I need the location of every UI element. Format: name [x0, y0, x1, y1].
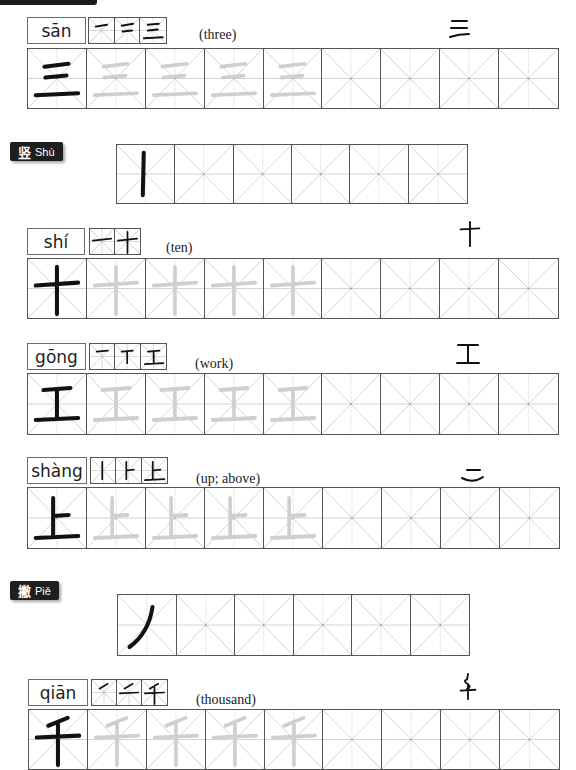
- model-character-cell: [28, 488, 87, 548]
- practice-grid-qian: [28, 709, 560, 770]
- trace-cell: [146, 259, 205, 318]
- stroke-order-strip: [89, 343, 167, 370]
- trace-cell: [205, 49, 264, 108]
- pinyin-box: shí: [27, 228, 85, 255]
- blank-practice-cell: [500, 488, 559, 548]
- trace-cell: [264, 49, 323, 108]
- meaning-label: (work): [195, 356, 233, 372]
- blank-practice-cell: [235, 595, 294, 655]
- ancient-form-san: [442, 16, 478, 44]
- trace-cell: [87, 49, 146, 108]
- blank-practice-cell: [441, 488, 500, 548]
- ancient-form-shang: [455, 462, 491, 490]
- trace-cell: [265, 710, 324, 769]
- stroke-step-3: [142, 458, 167, 483]
- blank-practice-cell: [381, 374, 440, 434]
- model-character-cell: [28, 374, 87, 434]
- trace-cell: [205, 488, 264, 548]
- ancient-form-qian: [450, 672, 486, 700]
- practice-grid-gong: [27, 373, 559, 435]
- stroke-step-3: [141, 344, 166, 369]
- model-character-cell: [28, 259, 87, 318]
- blank-practice-cell: [441, 710, 500, 769]
- practice-grid-shi: [27, 258, 559, 319]
- trace-cell: [146, 49, 205, 108]
- stroke-step-2: [117, 680, 142, 705]
- trace-cell: [87, 259, 146, 318]
- blank-practice-cell: [234, 145, 292, 203]
- stroke-order-strip: [90, 457, 168, 484]
- stroke-order-strip: [89, 228, 141, 255]
- stroke-step-1: [90, 344, 115, 369]
- stroke-step-2: [115, 229, 140, 254]
- blank-practice-cell: [352, 595, 411, 655]
- blank-practice-cell: [350, 145, 408, 203]
- model-character-cell: [118, 595, 177, 655]
- stroke-pinyin: Piě: [35, 585, 51, 597]
- pinyin-box: shàng: [27, 457, 87, 484]
- model-character-cell: [28, 49, 87, 108]
- meaning-label: (ten): [166, 240, 192, 256]
- practice-grid-shang: [27, 487, 560, 549]
- trace-cell: [264, 488, 323, 548]
- ancient-form-shi: [452, 220, 488, 248]
- meaning-label: (three): [199, 27, 236, 43]
- pinyin-box: gōng: [27, 343, 86, 370]
- pinyin-box: sān: [27, 17, 86, 44]
- stroke-order-strip: [88, 17, 167, 44]
- blank-practice-cell: [323, 710, 382, 769]
- stroke-step-2: [115, 344, 140, 369]
- blank-practice-cell: [294, 595, 353, 655]
- blank-practice-cell: [440, 374, 499, 434]
- blank-practice-cell: [411, 595, 470, 655]
- blank-practice-cell: [382, 488, 441, 548]
- trace-cell: [206, 710, 265, 769]
- stroke-badge-shu: 竖 Shù: [10, 142, 63, 161]
- blank-practice-cell: [440, 259, 499, 318]
- blank-practice-cell: [323, 488, 382, 548]
- blank-practice-cell: [499, 374, 558, 434]
- stroke-step-1: [91, 458, 116, 483]
- stroke-step-1: [89, 18, 115, 43]
- practice-grid-pie: [117, 594, 470, 656]
- stroke-step-2: [116, 458, 141, 483]
- blank-practice-cell: [381, 49, 440, 108]
- stroke-pinyin: Shù: [35, 146, 55, 158]
- trace-cell: [87, 488, 146, 548]
- trace-cell: [87, 374, 146, 434]
- stroke-step-2: [115, 18, 141, 43]
- pinyin-box: qiān: [28, 679, 88, 706]
- blank-practice-cell: [499, 49, 558, 108]
- stroke-badge-pie: 撇 Piě: [10, 581, 59, 600]
- stroke-step-3: [140, 18, 166, 43]
- stroke-hanzi: 撇: [18, 581, 31, 600]
- blank-practice-cell: [499, 259, 558, 318]
- trace-cell: [147, 710, 206, 769]
- header-bar: [0, 0, 97, 5]
- blank-practice-cell: [292, 145, 350, 203]
- meaning-label: (up; above): [196, 471, 260, 487]
- trace-cell: [264, 259, 323, 318]
- model-character-cell: [29, 710, 88, 769]
- stroke-step-1: [92, 680, 117, 705]
- trace-cell: [88, 710, 147, 769]
- blank-practice-cell: [409, 145, 467, 203]
- blank-practice-cell: [175, 145, 233, 203]
- blank-practice-cell: [382, 710, 441, 769]
- blank-practice-cell: [177, 595, 236, 655]
- model-character-cell: [117, 145, 175, 203]
- practice-grid-san: [27, 48, 559, 109]
- practice-grid-shu: [116, 144, 468, 204]
- trace-cell: [264, 374, 323, 434]
- stroke-hanzi: 竖: [18, 142, 31, 161]
- blank-practice-cell: [322, 49, 381, 108]
- blank-practice-cell: [500, 710, 559, 769]
- blank-practice-cell: [322, 259, 381, 318]
- meaning-label: (thousand): [196, 692, 256, 708]
- stroke-step-3: [142, 680, 167, 705]
- ancient-form-gong: [450, 340, 486, 368]
- stroke-step-1: [90, 229, 115, 254]
- trace-cell: [146, 374, 205, 434]
- trace-cell: [146, 488, 205, 548]
- trace-cell: [205, 259, 264, 318]
